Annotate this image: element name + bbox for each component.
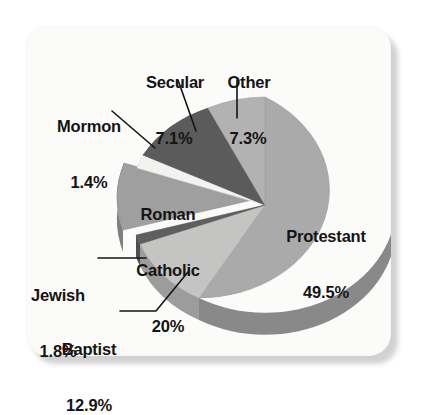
slice-label-secular-name: Secular (136, 73, 214, 92)
slice-label-baptist-pct: 12.9% (42, 396, 136, 415)
slice-label-other-pct: 7.3% (212, 129, 284, 148)
slice-label-secular: Secular 7.1% (136, 36, 214, 185)
slice-label-protestant-name: Protestant (268, 227, 384, 246)
slice-label-other: Other 7.3% (214, 36, 284, 185)
slice-label-baptist-name: Baptist (42, 340, 136, 359)
slice-label-roman-catholic-name1: Roman (112, 205, 224, 224)
slice-label-protestant-pct: 49.5% (268, 283, 384, 302)
slice-label-other-name: Other (214, 73, 284, 92)
slice-label-secular-pct: 7.1% (134, 129, 214, 148)
slice-label-baptist: Baptist 12.9% (42, 303, 136, 415)
slice-label-roman-catholic-name2: Catholic (112, 261, 224, 280)
slice-label-mormon-name: Mormon (42, 117, 136, 136)
slice-label-protestant: Protestant 49.5% (268, 190, 384, 339)
